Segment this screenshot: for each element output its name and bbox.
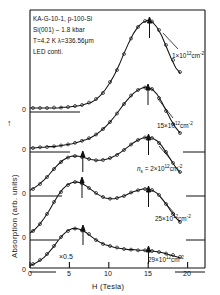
resonance-arrow-29e12-low [81,225,85,245]
zero-label-5: 0 [22,266,26,273]
x-tick-label-10: 10 [104,270,112,277]
trace-points-2e12 [32,136,182,191]
curve-label-15e12-unit: cm [180,122,189,129]
curve-label-2e12: ns = 2×1012cm-2 [137,165,182,172]
x-tick-label-0: 0 [28,270,32,277]
trace-15e12 [30,84,182,150]
resonance-arrow-1e12 [147,17,151,38]
curve-label-15e12-times: ×10 [164,122,175,129]
curve-label-29e12-unitexp: -2 [180,255,184,260]
trace-points-25e12 [32,181,182,233]
leader-15e12 [158,99,173,118]
resonance-arrow-25e12-high [146,186,150,207]
header-line-2: Si(001) – 1.8 kbar [33,26,85,33]
curve-label-25e12: 25×1012cm-2 [155,215,191,222]
trace-25e12 [30,177,182,233]
resonance-arrow-25e12-low [80,177,84,198]
zero-label-4: 0 [22,234,26,241]
trace-line-15e12 [30,87,180,148]
curve-label-29e12-unit: cm [171,256,180,263]
header-line-4: LED conti. [33,48,63,55]
x-axis-title: H (Tesla) [92,282,124,291]
leader-25e12 [160,197,175,214]
curve-label-25e12-unit: cm [178,215,187,222]
curve-label-1e12-unitexp: -2 [200,51,204,56]
resonance-arrow-2e12-low [81,151,85,172]
trace-line-25e12 [30,182,180,233]
plot-canvas [0,0,220,295]
curve-label-1e12: 1×1012cm-2 [172,52,204,59]
header-line-1: KA-G-10-1, p-100-Si [33,15,92,22]
trace-points-1e12 [32,20,182,110]
zero-label-3: 0 [22,190,26,197]
zero-label-1: 0 [22,106,26,113]
resonance-arrow-2e12-high [146,134,150,155]
trace-2e12 [30,134,182,191]
x-tick-label-20: 20 [183,270,191,277]
curve-label-2e12-unit: cm [170,165,179,172]
resonance-arrow-15e12 [146,84,150,105]
curve-label-25e12-times: ×10 [162,215,173,222]
x-tick-label-15: 15 [144,270,152,277]
zero-label-2: 0 [22,146,26,153]
x-tick-label-5: 5 [67,270,71,277]
figure-panel: Absorption (arb. units) ↑ [0,0,220,295]
curve-label-2e12-times: ×10 [154,165,165,172]
scale-annotation: ×0.5 [59,253,73,260]
trace-points-15e12 [32,86,182,150]
curve-label-25e12-unitexp: -2 [187,214,191,219]
curve-label-29e12: 29×1012cm-2 [148,256,184,263]
curve-label-1e12-times: ×10 [176,52,187,59]
curve-label-15e12-unitexp: -2 [189,121,193,126]
curve-label-2e12-unitexp: -2 [178,164,182,169]
header-line-3: T=4.2 K λ=336.56μm [33,37,94,44]
curve-label-15e12: 15×1012cm-2 [157,122,193,129]
curve-label-29e12-times: ×10 [155,256,166,263]
curve-label-1e12-unit: cm [192,52,201,59]
leader-2e12 [159,146,172,161]
